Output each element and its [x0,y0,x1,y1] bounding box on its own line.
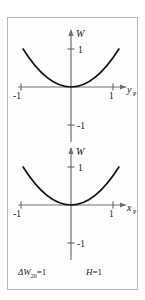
x-ticklabel-neg1-top: -1 [13,91,21,101]
caption-delta-w-value: =1 [37,267,47,277]
y-axis-label-top: W [76,28,86,39]
caption-delta-w-symbol: ΔW [18,267,31,277]
y-axis-arrow [68,29,73,36]
y-ticklabel-neg1-top: -1 [77,121,85,131]
chart-top-canvas: W 1 -1 -1 1 y P [8,18,137,148]
chart-bottom-canvas: W 1 -1 -1 1 x P [8,136,137,266]
chart-bottom: W 1 -1 -1 1 x P [8,136,137,266]
y-ticklabel-pos1-top: 1 [78,45,83,55]
caption-row: ΔW20=1 H=1 [8,265,137,285]
x-axis-arrow [120,84,126,89]
x-ticklabel-pos1-top: 1 [109,91,114,101]
caption-h: H=1 [86,267,102,277]
y-axis-arrow [68,147,73,154]
caption-delta-w: ΔW20=1 [18,267,46,279]
axes-top [18,29,126,142]
x-ticklabel-pos1-bottom: 1 [109,209,114,219]
x-axis-label-bottom: x [126,202,132,213]
x-axis-label-sub-top: P [133,91,137,97]
axes-bottom [18,147,126,260]
y-ticklabel-neg1-bottom: -1 [77,239,85,249]
x-axis-label-sub-bottom: P [133,209,137,215]
y-ticklabel-pos1-bottom: 1 [78,163,83,173]
figure-panel: W 1 -1 -1 1 y P W 1 -1 -1 [7,17,138,290]
y-axis-label-bottom: W [76,146,86,157]
chart-top: W 1 -1 -1 1 y P [8,18,137,148]
x-axis-arrow [120,202,126,207]
caption-h-value: =1 [93,267,103,277]
x-ticklabel-neg1-bottom: -1 [13,209,21,219]
x-axis-label-top: y [126,84,132,95]
